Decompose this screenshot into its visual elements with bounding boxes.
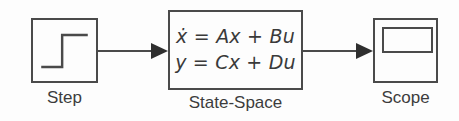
connector-step-to-statespace (96, 38, 172, 64)
state-equation: ẋ = Ax + Bu (176, 25, 295, 49)
scope-block-label: Scope (373, 88, 438, 108)
block-diagram-canvas: Step ẋ = Ax + Bu y = Cx + Du State-Space… (0, 0, 459, 121)
state-space-block-label: State-Space (168, 93, 303, 113)
step-function-icon (33, 20, 96, 81)
scope-block[interactable] (373, 18, 438, 83)
step-block-label: Step (31, 88, 98, 108)
state-space-block[interactable]: ẋ = Ax + Bu y = Cx + Du (168, 10, 303, 90)
connector-statespace-to-scope (301, 38, 377, 64)
output-equation: y = Cx + Du (175, 51, 296, 75)
scope-screen-icon (382, 27, 433, 53)
step-block[interactable] (31, 18, 98, 83)
